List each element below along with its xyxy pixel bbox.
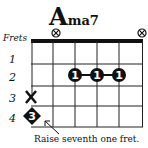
finger-dot: 1: [112, 68, 126, 82]
muted-x-icon: [26, 91, 36, 103]
svg-text:1: 1: [93, 69, 101, 82]
annotation-text: Raise seventh one fret.: [34, 134, 139, 144]
frets: [31, 64, 143, 127]
svg-text:3: 3: [28, 110, 36, 123]
optional-note-diamond: 3: [23, 107, 41, 125]
muted-string-icon: [138, 29, 146, 37]
muted-string-icon: [52, 29, 60, 37]
svg-text:1: 1: [71, 69, 79, 82]
finger-dot: 1: [68, 68, 82, 82]
nut: [31, 39, 143, 43]
finger-dot: 1: [90, 68, 104, 82]
strings: [32, 41, 143, 127]
svg-text:1: 1: [115, 69, 123, 82]
chord-diagram: 1 1 1 3: [0, 0, 148, 148]
